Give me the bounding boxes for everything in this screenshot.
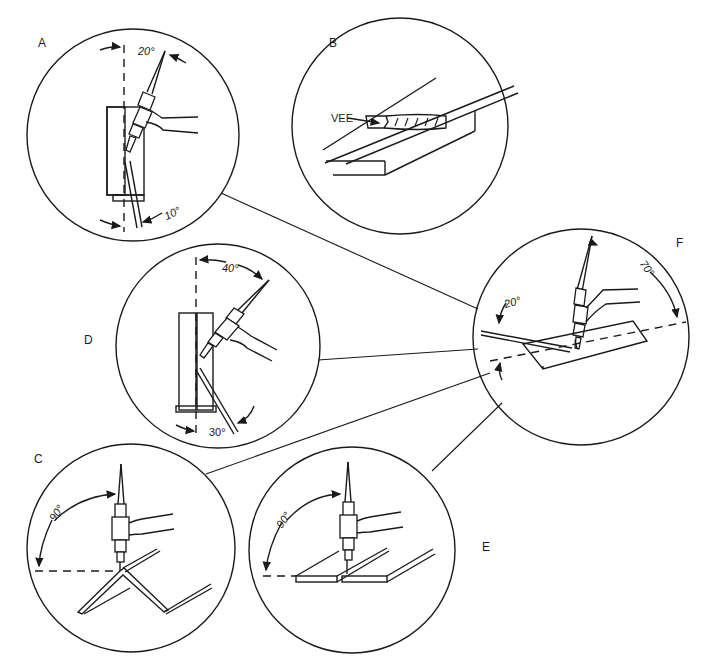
angle-label-d-torch: 40° [222,262,239,274]
panel-label-f: F [676,236,683,250]
angle-label-a-torch: 20° [138,45,155,57]
welding-angle-diagram: A B C D E F 20° 10° VEE 40° 30° 70° 20° … [0,0,708,672]
panel-label-b: B [329,36,337,50]
panel-label-d: D [84,333,93,347]
panel-b [292,18,518,234]
connector-lines [206,193,502,474]
panel-a [27,29,239,241]
diagram-canvas [0,0,708,672]
panel-label-c: C [34,452,43,466]
panel-label-a: A [38,36,46,50]
angle-label-d-rod: 30° [209,426,226,438]
panel-c [27,444,235,652]
panel-e [249,447,455,653]
panel-d [116,244,320,448]
panel-label-e: E [482,540,490,554]
vee-callout: VEE [331,112,353,124]
panel-f [473,229,689,445]
